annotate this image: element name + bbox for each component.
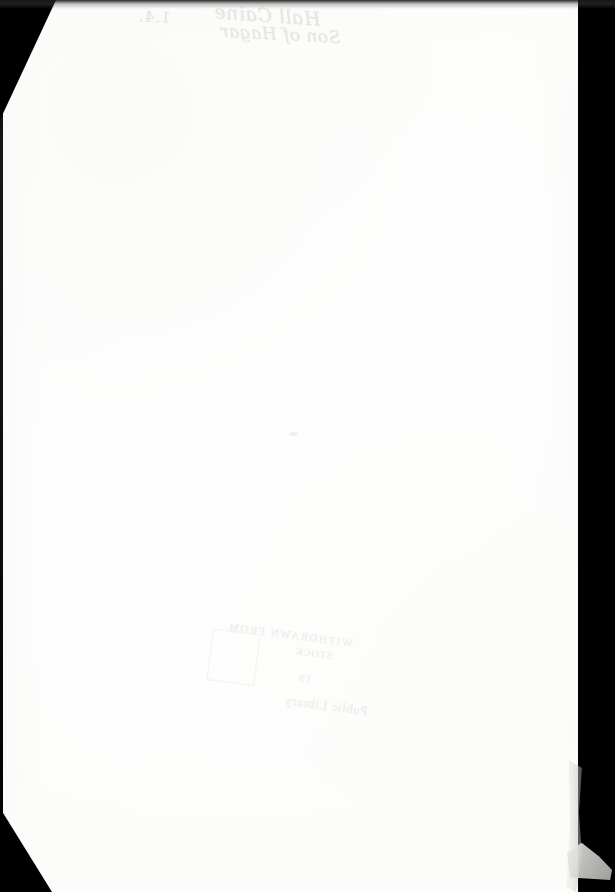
- scanner-bed-right: [578, 0, 615, 892]
- page-sheet: [3, 0, 578, 892]
- page-edge-left: [0, 0, 3, 892]
- paper-texture: [3, 0, 578, 892]
- scanned-page-canvas: 1.4. Hall Caine Son of Hagar WITHDRAWN F…: [0, 0, 615, 892]
- paper-speck: [289, 432, 298, 436]
